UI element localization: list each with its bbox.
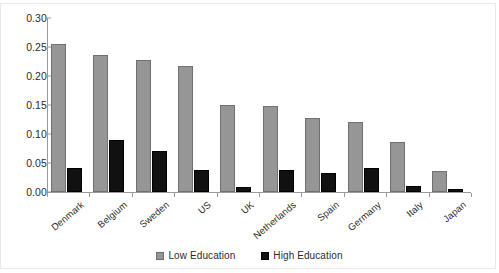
y-axis-tick-label: 0.00	[0, 186, 53, 198]
y-axis-tick-label: 0.20	[0, 70, 53, 82]
bar-low-education	[432, 171, 447, 192]
bar-low-education	[178, 66, 193, 192]
x-axis-label: Germany	[346, 199, 384, 233]
x-axis-tick-mark	[386, 193, 387, 197]
bar-low-education	[263, 106, 278, 192]
bar-low-education	[220, 105, 235, 192]
x-axis-tick-mark	[344, 193, 345, 197]
bar-high-education	[279, 170, 294, 192]
x-axis-label: Netherlands	[251, 199, 298, 241]
x-axis-label: Italy	[405, 199, 426, 219]
bar-low-education	[305, 118, 320, 192]
bar-low-education	[93, 55, 108, 192]
x-axis-label: Denmark	[49, 199, 86, 233]
bar-low-education	[136, 60, 151, 192]
bar-high-education	[152, 151, 167, 192]
x-axis-tick-mark	[132, 193, 133, 197]
bar-chart: 0.000.050.100.150.200.250.30 DenmarkBelg…	[0, 0, 499, 273]
x-axis-tick-mark	[259, 193, 260, 197]
legend-label: High Education	[273, 250, 342, 261]
bar-high-education	[321, 173, 336, 192]
x-axis-tick-mark	[47, 193, 48, 197]
bar-high-education	[236, 187, 251, 192]
legend-item[interactable]: High Education	[261, 250, 342, 261]
x-axis-label: Spain	[315, 199, 341, 223]
bar-high-education	[67, 168, 82, 192]
x-axis-label: Japan	[441, 199, 468, 224]
y-axis-tick-label: 0.15	[0, 99, 53, 111]
y-axis-tick-label: 0.30	[0, 12, 53, 24]
legend-label: Low Education	[168, 250, 235, 261]
x-axis-tick-mark	[174, 193, 175, 197]
chart-legend: Low EducationHigh Education	[0, 250, 499, 261]
bar-high-education	[109, 140, 124, 192]
bar-high-education	[406, 186, 421, 192]
x-axis-label: Sweden	[137, 199, 171, 230]
x-axis-tick-mark	[89, 193, 90, 197]
bar-low-education	[51, 44, 66, 192]
x-axis-label: UK	[239, 199, 256, 216]
bar-high-education	[364, 168, 379, 192]
x-axis-tick-mark	[471, 193, 472, 197]
y-axis-tick-label: 0.25	[0, 41, 53, 53]
legend-swatch-high-icon	[261, 252, 269, 260]
x-axis-label: US	[196, 199, 213, 216]
bars-layer	[47, 18, 471, 192]
x-axis-tick-mark	[217, 193, 218, 197]
x-axis-tick-mark	[429, 193, 430, 197]
bar-high-education	[448, 189, 463, 192]
y-axis-tick-label: 0.05	[0, 157, 53, 169]
x-axis-tick-mark	[301, 193, 302, 197]
legend-item[interactable]: Low Education	[156, 250, 235, 261]
x-axis-label: Belgium	[95, 199, 129, 230]
y-axis-tick-label: 0.10	[0, 128, 53, 140]
bar-low-education	[348, 122, 363, 192]
bar-high-education	[194, 170, 209, 192]
bar-low-education	[390, 142, 405, 192]
legend-swatch-low-icon	[156, 252, 164, 260]
